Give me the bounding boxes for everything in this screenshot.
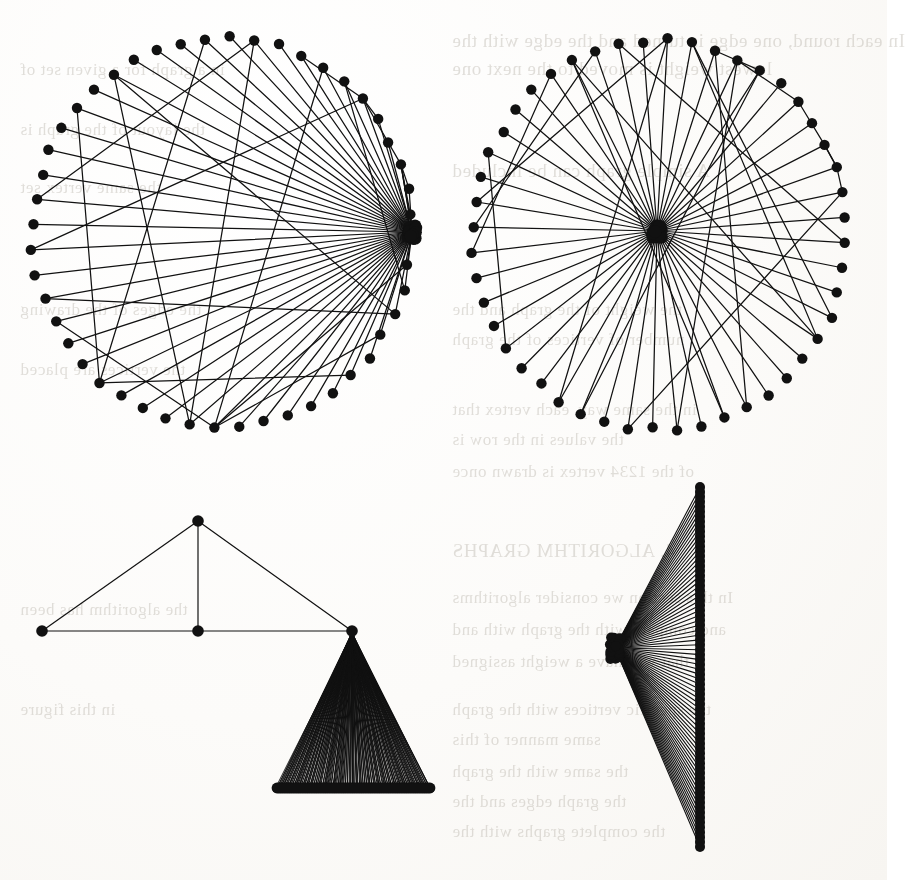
graph-drawing [466, 33, 850, 436]
graph-node [782, 373, 792, 383]
graph-node [479, 297, 489, 307]
graph-node [402, 260, 412, 270]
graph-node [710, 46, 720, 56]
graph-node [36, 625, 48, 637]
graph-node [365, 353, 375, 363]
triangle-with-dense-fan-graph [0, 450, 450, 880]
graph-node [138, 403, 148, 413]
graph-edge [504, 132, 657, 231]
graph-node [258, 416, 268, 426]
graph-node [28, 219, 38, 229]
graph-edge [311, 232, 412, 406]
graph-edge [559, 231, 657, 402]
graph-node [192, 515, 204, 527]
graph-node [26, 245, 36, 255]
graph-node [77, 359, 87, 369]
graph-node [476, 172, 486, 182]
graph-drawing [605, 482, 705, 852]
graph-edge [657, 60, 737, 231]
graph-node [234, 421, 244, 431]
graph-edge [476, 231, 657, 278]
figure-bottom-right [440, 450, 887, 880]
graph-edge [77, 108, 99, 383]
graph-node [373, 114, 383, 124]
graph-node [623, 424, 633, 434]
graph-node [72, 103, 82, 113]
graph-node [471, 273, 481, 283]
graph-node [274, 39, 284, 49]
graph-node [471, 197, 481, 207]
graph-edge [56, 321, 214, 427]
graph-node [696, 421, 706, 431]
graph-node [763, 390, 773, 400]
graph-drawing [26, 31, 423, 433]
graph-edge [474, 227, 657, 231]
graph-edge [198, 521, 352, 631]
graph-node [638, 38, 648, 48]
graph-node [839, 212, 849, 222]
graph-node [328, 388, 338, 398]
graph-node [812, 334, 822, 344]
graph-node [832, 287, 842, 297]
graph-node [837, 187, 847, 197]
graph-node [405, 209, 415, 219]
graph-node [546, 69, 556, 79]
graph-node [489, 321, 499, 331]
graph-node [510, 104, 520, 114]
graph-node [695, 842, 705, 852]
graph-node [647, 422, 657, 432]
circular-layout-offset-hub-graph [0, 0, 447, 450]
graph-node [390, 309, 400, 319]
graph-node [200, 35, 210, 45]
graph-node [152, 45, 162, 55]
graph-edge [42, 521, 198, 631]
graph-node [797, 353, 807, 363]
graph-node [129, 55, 139, 65]
graph-edge [477, 202, 657, 231]
graph-node [89, 84, 99, 94]
graph-node [224, 31, 234, 41]
graph-node [687, 37, 697, 47]
graph-node [483, 147, 493, 157]
graph-edge [165, 232, 412, 418]
graph-node [819, 140, 829, 150]
graph-node [776, 78, 786, 88]
graph-node [575, 409, 585, 419]
graph-node [160, 413, 170, 423]
graph-node [590, 46, 600, 56]
graph-node [469, 222, 479, 232]
graph-node [375, 329, 385, 339]
graph-node [793, 97, 803, 107]
graph-edge [494, 231, 657, 326]
graph-node [832, 162, 842, 172]
graph-edge [68, 232, 412, 343]
graph-node [358, 93, 368, 103]
graph-node [840, 238, 850, 248]
graph-node [396, 159, 406, 169]
graph-node [732, 55, 742, 65]
figure-top-left [0, 0, 447, 450]
graph-node [526, 84, 536, 94]
graph-node [404, 230, 417, 243]
graph-node [345, 370, 355, 380]
graph-edge [472, 74, 551, 253]
graph-node [837, 263, 847, 273]
graph-node [536, 378, 546, 388]
graph-edge [205, 40, 412, 232]
graph-node [807, 118, 817, 128]
graph-node [29, 270, 39, 280]
graph-edge [279, 44, 412, 232]
graph-node [296, 51, 306, 61]
graph-node [516, 363, 526, 373]
graph-edge [77, 108, 412, 232]
graph-node [742, 402, 752, 412]
graph-node [499, 127, 509, 137]
vertical-column-fan-graph [440, 450, 887, 880]
graph-edge [572, 60, 657, 231]
graph-node [109, 70, 119, 80]
graph-node [63, 338, 73, 348]
graph-node [662, 33, 672, 43]
graph-edge [301, 56, 363, 99]
graph-edge [190, 41, 255, 425]
